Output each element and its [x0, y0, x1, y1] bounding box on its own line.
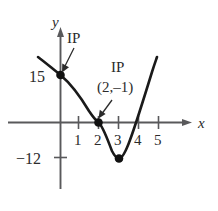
y-value-label-15: 15	[29, 68, 45, 85]
y-axis	[54, 27, 67, 189]
inflection-point-mid-dot	[94, 118, 103, 127]
cubic-graph-svg: y x 1 2 3 4 5 15 −12 IP IP (2,–1)	[0, 0, 218, 211]
inflection-point-top-dot	[56, 71, 65, 80]
ip-mid-coords-label: (2,–1)	[97, 79, 133, 96]
ip-top-pointer	[62, 48, 74, 73]
x-tick-label-2: 2	[94, 132, 102, 148]
ip-mid-pointer	[99, 100, 113, 119]
x-tick-label-4: 4	[134, 132, 142, 148]
minimum-point-dot	[115, 154, 124, 163]
y-value-label-minus12: −12	[16, 150, 41, 167]
x-tick-label-3: 3	[114, 132, 122, 148]
y-axis-label: y	[50, 14, 59, 30]
graph-figure: y x 1 2 3 4 5 15 −12 IP IP (2,–1)	[0, 0, 218, 211]
ip-mid-label: IP	[111, 59, 124, 75]
x-axis-arrow	[182, 119, 192, 126]
x-axis-label: x	[197, 115, 205, 131]
x-tick-label-1: 1	[74, 132, 82, 148]
x-tick-label-5: 5	[154, 132, 162, 148]
ip-top-label: IP	[67, 30, 80, 46]
